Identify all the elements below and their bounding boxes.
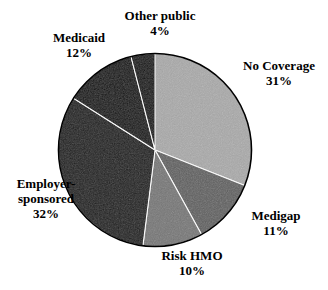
- slice-label-employer-sponsored-name-line1: Employer-: [0, 176, 92, 191]
- slice-label-no-coverage-percent: 31%: [232, 73, 326, 88]
- pie-chart-figure: Other public 4% Medicaid 12% No Coverage…: [0, 0, 328, 290]
- slice-label-medigap: Medigap 11%: [233, 208, 319, 238]
- slice-label-risk-hmo-name: Risk HMO: [143, 248, 241, 263]
- slice-label-risk-hmo-percent: 10%: [143, 263, 241, 278]
- slice-label-employer-sponsored-percent: 32%: [0, 206, 92, 221]
- slice-label-medigap-name: Medigap: [233, 208, 319, 223]
- slice-label-employer-sponsored: Employer- sponsored 32%: [0, 176, 92, 221]
- slice-label-no-coverage-name: No Coverage: [232, 58, 326, 73]
- slice-label-employer-sponsored-name-line2: sponsored: [0, 191, 92, 206]
- slice-label-no-coverage: No Coverage 31%: [232, 58, 326, 88]
- slice-label-medicaid-percent: 12%: [31, 45, 127, 60]
- slice-label-medigap-percent: 11%: [233, 223, 319, 238]
- slice-label-other-public-name: Other public: [100, 8, 220, 23]
- slice-label-risk-hmo: Risk HMO 10%: [143, 248, 241, 278]
- slice-label-medicaid: Medicaid 12%: [31, 30, 127, 60]
- slice-label-medicaid-name: Medicaid: [31, 30, 127, 45]
